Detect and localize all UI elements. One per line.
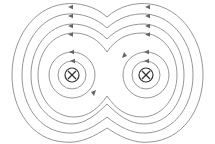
arrow-left-icon [70,59,75,63]
arrow-left-icon [144,50,149,54]
arrow-left-icon [144,59,149,63]
direction-arrows [68,5,150,96]
arrow-down-left-icon [122,52,127,58]
arrow-left-icon [68,5,73,9]
enclosing-field-lines [12,4,203,143]
arrow-up-right-icon [91,90,96,96]
arrow-left-icon [69,50,74,54]
right-wire [139,68,153,82]
left-wire [65,68,79,82]
arrow-left-icon [145,5,150,9]
arrow-left-icon [68,14,73,18]
magnetic-field-diagram [0,0,215,144]
